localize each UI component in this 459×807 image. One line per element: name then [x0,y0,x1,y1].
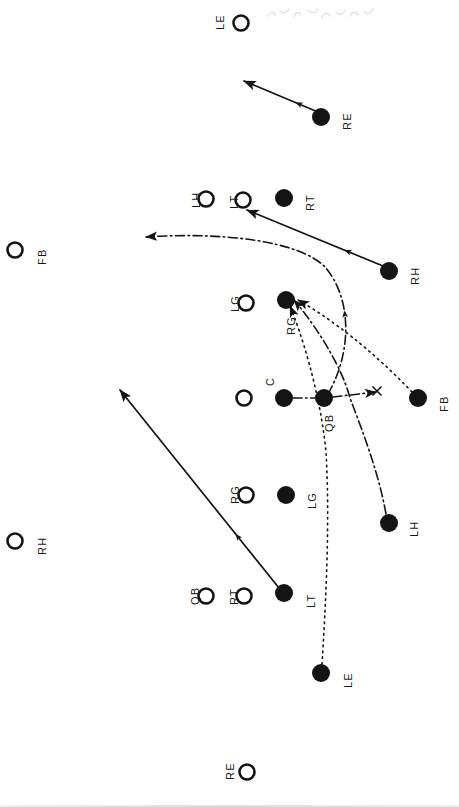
player-label-off-rh: RH [409,267,421,285]
player-label-off-qb: QB [323,414,335,432]
player-marker-off-fb[interactable] [409,389,427,407]
play-diagram-svg [0,0,459,807]
player-marker-off-rh[interactable] [380,262,398,280]
player-label-def-rh: RH [36,537,48,555]
player-label-def-le-top: LE [214,14,226,30]
player-marker-off-lh[interactable] [380,514,398,532]
routes-layer [120,81,412,664]
route-mid-arrowhead-icon [342,310,348,318]
player-marker-def-rh[interactable] [8,534,23,549]
player-marker-off-le[interactable] [312,664,330,682]
player-label-def-re-bot: RE [224,762,236,780]
player-label-off-fb: FB [438,396,450,412]
player-marker-def-c[interactable] [237,391,252,406]
player-marker-off-qb[interactable] [315,389,333,407]
player-label-def-lh: LH [190,192,202,208]
player-marker-off-re[interactable] [312,108,330,126]
route-path-off-fb [298,300,412,392]
player-marker-off-c[interactable] [275,389,293,407]
player-label-off-lt: LT [305,594,317,608]
route-path-off-lt [120,390,279,588]
route-path-off-le [290,306,328,664]
player-label-def-lt: LT [228,195,240,209]
player-marker-def-fb[interactable] [8,243,23,258]
route-mid-arrowhead-icon [343,247,352,255]
route-path-off-lh [294,300,386,514]
player-label-def-fb: FB [36,249,48,265]
player-marker-def-re-bot[interactable] [240,765,255,780]
player-label-off-le: LE [342,672,354,688]
route-path-off-re [244,81,318,112]
players-layer [8,16,428,780]
route-path-off-rh [247,210,383,266]
route-mid-arrowhead-icon [294,100,303,108]
player-label-off-re: RE [341,112,353,130]
player-label-def-c: C [264,377,276,386]
player-label-def-lg: LG [229,295,241,312]
mesh-point-x-icon [373,387,382,396]
player-label-off-lh: LH [408,521,420,537]
player-label-off-rg: RG [285,316,297,335]
player-label-def-qb: QB [189,587,201,605]
player-marker-off-lt[interactable] [275,584,293,602]
player-label-def-rg: RG [229,485,241,504]
player-label-off-lg: LG [306,492,318,509]
player-label-off-rt: RT [304,194,316,211]
player-label-def-rt: RT [228,588,240,605]
route-path-off-qb [146,236,346,394]
route-path-off-qb [333,392,376,397]
play-diagram-canvas: LERELHLTRTFBRHLGRGCQBFBRHRGLGLHQBRTLTLER… [0,0,459,807]
player-marker-def-le-top[interactable] [234,16,249,31]
player-marker-off-rt[interactable] [275,189,293,207]
player-marker-off-lg[interactable] [277,486,295,504]
mesh-point-layer [373,387,382,396]
player-marker-off-rg[interactable] [277,291,295,309]
